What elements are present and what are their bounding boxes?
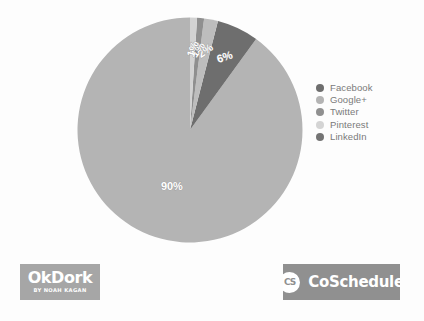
legend-item-label: LinkedIn [330,131,367,143]
legend-swatch-icon [316,133,324,141]
legend-swatch-icon [316,96,324,104]
okdork-wordmark: OkDork [28,270,93,286]
coschedule-wordmark: CoSchedule [308,274,400,290]
legend-item-google-[interactable]: Google+ [316,94,416,106]
coschedule-badge-icon: CS [283,272,300,293]
legend-swatch-icon [316,84,324,92]
slide-canvas: 90%6%2%1%1% FacebookGoogle+TwitterPinter… [0,0,424,321]
legend-item-label: Pinterest [330,119,368,131]
okdork-logo[interactable]: OkDork BY NOAH KAGAN [20,264,100,300]
legend-item-facebook[interactable]: Facebook [316,82,416,94]
legend-item-label: Facebook [330,82,373,94]
coschedule-badge-text: CS [284,278,295,287]
legend-swatch-icon [316,108,324,116]
pie-chart-svg: 90%6%2%1%1% [77,17,303,243]
pie-label-facebook: 90% [161,180,183,192]
pie-chart: 90%6%2%1%1% [77,17,303,243]
legend-item-label: Twitter [330,106,359,118]
legend-item-linkedin[interactable]: LinkedIn [316,131,416,143]
legend-item-label: Google+ [330,94,367,106]
legend-swatch-icon [316,121,324,129]
coschedule-logo[interactable]: CS CoSchedule [283,264,400,300]
legend-item-twitter[interactable]: Twitter [316,106,416,118]
chart-legend: FacebookGoogle+TwitterPinterestLinkedIn [316,82,416,143]
okdork-tagline: BY NOAH KAGAN [33,287,86,294]
legend-item-pinterest[interactable]: Pinterest [316,119,416,131]
